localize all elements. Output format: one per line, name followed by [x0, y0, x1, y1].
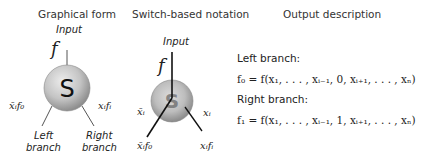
left-branch-title: Left branch:: [237, 52, 300, 64]
left-branch-label-line1: Left: [34, 130, 53, 141]
left-branch-equation: f₀ = f(x₁, . . . , xᵢ₋₁, 0, xᵢ₊₁, . . . …: [237, 73, 416, 85]
right-branch-title: Right branch:: [237, 93, 308, 105]
switch-left-edge-label: x̄ᵢ: [137, 106, 145, 117]
graphical-left-edge-label: x̄ᵢf₀: [9, 100, 24, 111]
switch-notation-node: S: [147, 52, 202, 137]
graphical-node-label: S: [59, 75, 74, 103]
right-branch-label-line1: Right: [86, 130, 112, 141]
graphical-input-label: Input: [56, 24, 82, 35]
left-branch-label-line2: branch: [26, 142, 61, 153]
graphical-form-node: S: [42, 50, 94, 126]
graphical-f-label: f: [51, 38, 58, 59]
switch-right-edge-label: xᵢ: [203, 107, 211, 118]
switch-input-label: Input: [163, 36, 189, 47]
right-branch-label-line2: branch: [82, 142, 117, 153]
switch-left-output-label: x̄ᵢf₀: [137, 140, 152, 151]
right-branch-equation: f₁ = f(x₁, . . . , xᵢ₋₁, 1, xᵢ₊₁, . . . …: [237, 114, 416, 126]
graphical-right-edge-label: xᵢfᵢ: [98, 100, 111, 111]
switch-f-label: f: [158, 55, 165, 76]
switch-right-output-label: xᵢfᵢ: [200, 140, 213, 151]
